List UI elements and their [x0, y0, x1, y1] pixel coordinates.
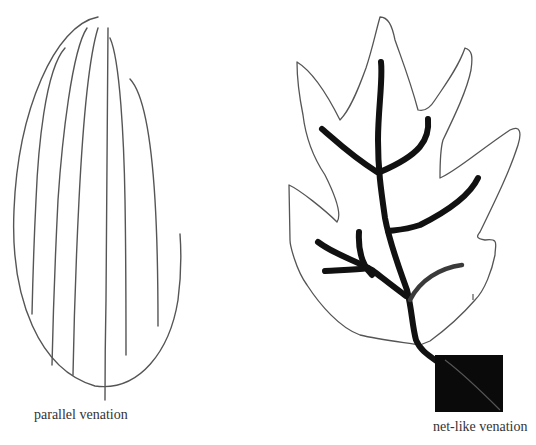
vein-lower-right	[410, 265, 462, 300]
vein-5	[110, 38, 126, 355]
diagram-canvas: parallel venation net-like venation	[0, 0, 536, 445]
vein-upper-right	[380, 119, 428, 172]
vein-3	[73, 28, 98, 375]
caption-net-like-venation: net-like venation	[433, 419, 527, 435]
parallel-leaf	[14, 17, 181, 400]
net-leaf	[289, 17, 520, 412]
vein-midrib	[105, 28, 108, 400]
vein-mid-right	[388, 178, 478, 231]
caption-parallel-venation: parallel venation	[34, 407, 128, 423]
vein-6	[130, 79, 158, 326]
vein-upper-left	[322, 129, 377, 172]
vein-2	[52, 28, 87, 365]
vein-lower-left-b	[325, 268, 368, 271]
